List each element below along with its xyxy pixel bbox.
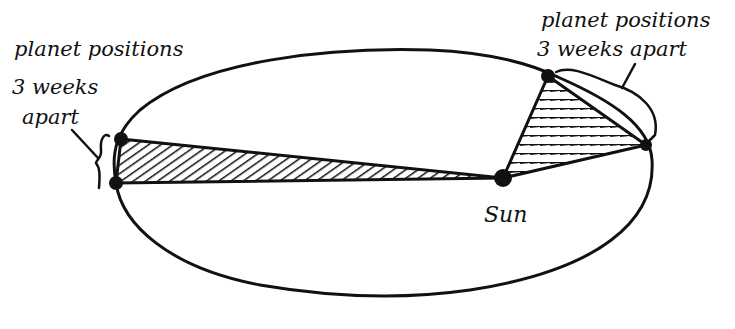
planet-dot-left-bottom [109,176,123,190]
kepler-orbit-diagram: planet positions 3 weeks apart planet po… [0,0,735,329]
sun-label: Sun [484,202,527,227]
left-label-line1: planet positions [14,37,184,61]
right-label-line1: planet positions [541,8,711,32]
left-bracket [72,130,109,188]
right-label-line2: 3 weeks apart [537,37,688,61]
left-label-line2: 3 weeks [12,75,99,99]
left-label-line3: apart [22,105,80,129]
planet-dot-left-top [114,132,128,146]
planet-dot-right-top [541,69,555,83]
sun-dot [494,169,512,187]
